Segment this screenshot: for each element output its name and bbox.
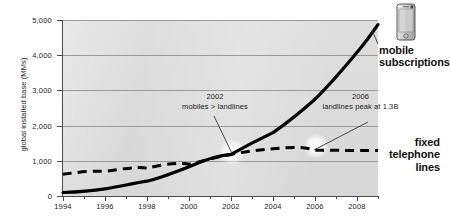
series-label-mobile-line2: subscriptions (379, 56, 450, 68)
annotation-2002-year: 2002 (145, 92, 285, 102)
series-label-fixed-telephone-lines: fixed telephone lines (383, 136, 440, 173)
leader-line-mobile (372, 30, 378, 44)
series-label-fixed-line2: telephone (389, 148, 440, 160)
annotation-2006-year: 2006 (298, 92, 423, 102)
leader-line-2002 (214, 116, 232, 154)
series-label-fixed-line1: fixed (415, 136, 440, 148)
series-label-mobile-line1: mobile (379, 44, 414, 56)
leader-line-2006 (314, 122, 368, 150)
annotation-landline-peak-2006: 2006 landlines peak at 1.3B (298, 92, 423, 112)
smartphone-icon (396, 3, 416, 41)
annotation-2002-text: mobiles > landlines (145, 102, 285, 112)
series-label-fixed-line3: lines (415, 161, 440, 173)
annotation-crossover-2002: 2002 mobiles > landlines (145, 92, 285, 112)
annotation-2006-text: landlines peak at 1.3B (298, 102, 423, 112)
series-path-fixed-telephone-lines (63, 147, 378, 174)
series-label-mobile-subscriptions: mobile subscriptions (379, 44, 440, 69)
